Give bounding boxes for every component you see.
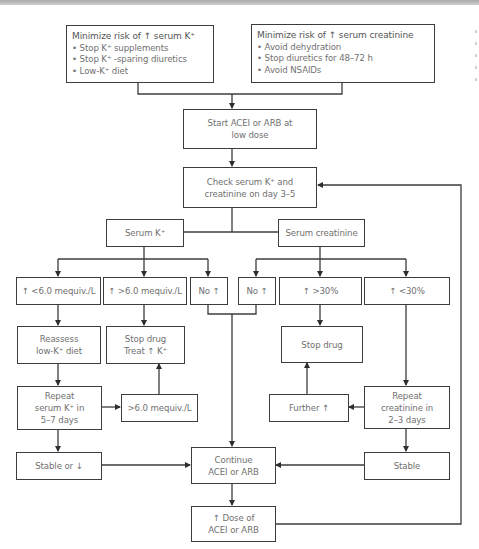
box-line: creatinine in bbox=[381, 402, 433, 414]
box-line: 5–7 days bbox=[41, 414, 78, 426]
box-line: Repeat bbox=[392, 390, 422, 402]
cr-lt30-box: ↑ <30% bbox=[364, 277, 450, 305]
bullet-item: • Stop K⁺ -sparing diuretics bbox=[72, 54, 187, 66]
check-labs-box: Check serum K⁺ and creatinine on day 3–5 bbox=[183, 167, 317, 208]
box-label: Stop drug bbox=[301, 339, 342, 351]
box-line: Repeat bbox=[45, 390, 75, 402]
box-line: Check serum K⁺ and bbox=[207, 176, 293, 188]
box-line: low-K⁺ diet bbox=[36, 345, 82, 357]
minimize-creatinine-box: Minimize risk of ↑ serum creatinine • Av… bbox=[251, 24, 435, 83]
box-label: Serum creatinine bbox=[285, 227, 357, 239]
box-label: >6.0 mequiv./L bbox=[128, 402, 192, 414]
box-label: ↑ <6.0 mequiv./L bbox=[22, 285, 96, 297]
stop-drug-treat-k-box: Stop drug Treat ↑ K⁺ bbox=[106, 326, 185, 364]
reassess-diet-box: Reassess low-K⁺ diet bbox=[17, 326, 101, 364]
k-gt6-box: ↑ >6.0 mequiv./L bbox=[103, 277, 187, 305]
repeat-creatinine-box: Repeat creatinine in 2–3 days bbox=[364, 386, 450, 429]
k-stable-box: Stable or ↓ bbox=[16, 452, 102, 480]
box-line: Stop drug bbox=[125, 333, 166, 345]
k-gt6-recheck-box: >6.0 mequiv./L bbox=[121, 394, 198, 422]
serum-k-box: Serum K⁺ bbox=[106, 219, 184, 247]
box-label: ↑ >30% bbox=[303, 285, 339, 297]
cr-stable-box: Stable bbox=[364, 452, 450, 480]
continue-acei-arb-box: Continue ACEI or ARB bbox=[191, 447, 276, 484]
bullet-item: • Avoid NSAIDs bbox=[257, 65, 321, 77]
box-label: Further ↑ bbox=[289, 402, 329, 414]
box-line: ACEI or ARB bbox=[208, 466, 259, 478]
bullet-item: • Low-K⁺ diet bbox=[72, 66, 128, 78]
box-line: creatinine on day 3–5 bbox=[205, 188, 296, 200]
cr-stop-drug-box: Stop drug bbox=[281, 326, 363, 363]
repeat-serum-k-box: Repeat serum K⁺ in 5–7 days bbox=[17, 386, 102, 430]
box-line: serum K⁺ in bbox=[35, 402, 85, 414]
box-line: Continue bbox=[215, 454, 253, 466]
box-label: ↑ >6.0 mequiv./L bbox=[108, 285, 182, 297]
box-label: Stable or ↓ bbox=[35, 460, 83, 472]
box-line: ACEI or ARB bbox=[208, 524, 259, 536]
cr-further-increase-box: Further ↑ bbox=[269, 394, 349, 422]
box-label: Serum K⁺ bbox=[125, 227, 165, 239]
box-label: Stable bbox=[394, 460, 421, 472]
cr-no-increase-box: No ↑ bbox=[238, 277, 276, 305]
minimize-potassium-box: Minimize risk of ↑ serum K⁺ • Stop K⁺ su… bbox=[66, 25, 214, 83]
potassium-box-title: Minimize risk of ↑ serum K⁺ bbox=[72, 30, 195, 43]
k-no-increase-box: No ↑ bbox=[190, 277, 228, 305]
creatinine-box-title: Minimize risk of ↑ serum creatinine bbox=[257, 29, 414, 42]
box-line: ↑ Dose of bbox=[213, 512, 255, 524]
box-line: 2–3 days bbox=[388, 414, 425, 426]
box-label: ↑ <30% bbox=[389, 285, 425, 297]
box-label: No ↑ bbox=[246, 285, 267, 297]
bullet-item: • Avoid dehydration bbox=[257, 42, 341, 54]
bullet-item: • Stop diuretics for 48–72 h bbox=[257, 53, 373, 65]
bullet-item: • Stop K⁺ supplements bbox=[72, 43, 168, 55]
cr-gt30-box: ↑ >30% bbox=[279, 277, 362, 305]
box-line: Treat ↑ K⁺ bbox=[124, 345, 167, 357]
box-line: Reassess bbox=[40, 333, 79, 345]
box-label: No ↑ bbox=[198, 285, 219, 297]
increase-dose-box: ↑ Dose of ACEI or ARB bbox=[191, 506, 276, 542]
box-line: Start ACEI or ARB at bbox=[208, 117, 293, 129]
k-lt6-box: ↑ <6.0 mequiv./L bbox=[16, 277, 101, 305]
start-acei-arb-box: Start ACEI or ARB at low dose bbox=[183, 109, 317, 149]
serum-creatinine-box: Serum creatinine bbox=[278, 219, 365, 247]
box-line: low dose bbox=[231, 129, 268, 141]
